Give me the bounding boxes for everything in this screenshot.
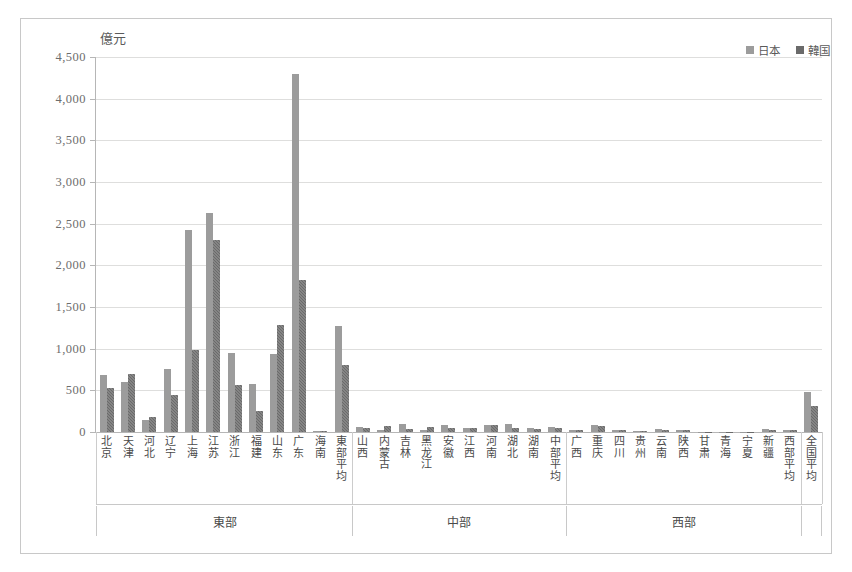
bar-group[interactable] [523, 57, 544, 432]
bar-japan[interactable] [548, 427, 555, 432]
bar-japan[interactable] [356, 427, 363, 432]
bar-korea[interactable] [256, 411, 263, 432]
bar-group[interactable] [694, 57, 715, 432]
bar-japan[interactable] [206, 213, 213, 432]
bar-korea[interactable] [320, 431, 327, 432]
bar-group[interactable] [352, 57, 373, 432]
bar-japan[interactable] [142, 420, 149, 433]
bar-japan[interactable] [185, 230, 192, 432]
bar-korea[interactable] [128, 374, 135, 432]
bar-group[interactable] [438, 57, 459, 432]
bar-group[interactable] [139, 57, 160, 432]
bar-japan[interactable] [676, 430, 683, 433]
bar-group[interactable] [310, 57, 331, 432]
bar-japan[interactable] [377, 430, 384, 433]
bar-group[interactable] [374, 57, 395, 432]
bar-japan[interactable] [441, 425, 448, 432]
bar-japan[interactable] [527, 428, 534, 432]
bar-group[interactable] [608, 57, 629, 432]
region-band-top-border [96, 504, 822, 505]
bar-japan[interactable] [804, 392, 811, 432]
bar-group[interactable] [395, 57, 416, 432]
bar-korea[interactable] [171, 395, 178, 433]
bar-japan[interactable] [633, 431, 640, 432]
bar-korea[interactable] [811, 406, 818, 432]
bar-group[interactable] [779, 57, 800, 432]
bar-group[interactable] [758, 57, 779, 432]
region-label: 東部 [96, 506, 352, 536]
bar-korea[interactable] [534, 429, 541, 432]
bar-japan[interactable] [121, 382, 128, 432]
bar-group[interactable] [502, 57, 523, 432]
bar-group[interactable] [673, 57, 694, 432]
bar-korea[interactable] [598, 426, 605, 432]
bar-korea[interactable] [662, 430, 669, 432]
bar-korea[interactable] [491, 425, 498, 433]
bar-japan[interactable] [228, 353, 235, 432]
bar-group[interactable] [224, 57, 245, 432]
bar-japan[interactable] [569, 430, 576, 432]
bar-group[interactable] [267, 57, 288, 432]
bar-japan[interactable] [164, 369, 171, 432]
bar-japan[interactable] [762, 429, 769, 432]
bar-korea[interactable] [235, 385, 242, 433]
bar-group[interactable] [160, 57, 181, 432]
bar-korea[interactable] [448, 428, 455, 432]
bar-group[interactable] [459, 57, 480, 432]
bar-japan[interactable] [505, 424, 512, 432]
bar-korea[interactable] [363, 428, 370, 432]
bar-korea[interactable] [683, 430, 690, 432]
bar-korea[interactable] [427, 427, 434, 432]
bar-group[interactable] [587, 57, 608, 432]
bar-group[interactable] [480, 57, 501, 432]
bar-group[interactable] [288, 57, 309, 432]
x-axis-tick-label: 贵州 [630, 436, 651, 459]
bar-japan[interactable] [463, 428, 470, 432]
bar-group[interactable] [737, 57, 758, 432]
bar-japan[interactable] [292, 74, 299, 432]
bar-japan[interactable] [270, 354, 277, 432]
bar-korea[interactable] [555, 428, 562, 432]
bar-japan[interactable] [655, 429, 662, 432]
bar-group[interactable] [801, 57, 822, 432]
bar-korea[interactable] [149, 417, 156, 432]
bar-korea[interactable] [619, 430, 626, 433]
bar-japan[interactable] [249, 384, 256, 432]
bar-group[interactable] [416, 57, 437, 432]
bar-japan[interactable] [591, 425, 598, 432]
bar-korea[interactable] [640, 431, 647, 432]
bar-group[interactable] [630, 57, 651, 432]
bar-japan[interactable] [420, 430, 427, 433]
bar-group[interactable] [181, 57, 202, 432]
bar-group[interactable] [96, 57, 117, 432]
bar-japan[interactable] [313, 431, 320, 432]
bar-japan[interactable] [100, 375, 107, 432]
bar-group[interactable] [715, 57, 736, 432]
bar-korea[interactable] [384, 426, 391, 432]
bar-group[interactable] [245, 57, 266, 432]
bar-korea[interactable] [470, 428, 477, 432]
bar-japan[interactable] [484, 425, 491, 432]
bar-japan[interactable] [783, 430, 790, 433]
bar-korea[interactable] [512, 428, 519, 432]
bar-korea[interactable] [576, 430, 583, 432]
bar-japan[interactable] [399, 424, 406, 432]
bar-korea[interactable] [342, 365, 349, 433]
bar-korea[interactable] [213, 240, 220, 432]
bar-korea[interactable] [769, 430, 776, 432]
bar-japan[interactable] [335, 326, 342, 432]
bar-korea[interactable] [192, 350, 199, 432]
bar-korea[interactable] [107, 388, 114, 432]
legend-label-korea: 韓国 [808, 42, 830, 58]
bar-korea[interactable] [277, 325, 284, 433]
bar-group[interactable] [544, 57, 565, 432]
bar-group[interactable] [117, 57, 138, 432]
bar-korea[interactable] [790, 430, 797, 432]
bar-group[interactable] [566, 57, 587, 432]
bar-group[interactable] [331, 57, 352, 432]
bar-group[interactable] [651, 57, 672, 432]
bar-korea[interactable] [406, 429, 413, 432]
bar-korea[interactable] [299, 280, 306, 433]
bar-group[interactable] [203, 57, 224, 432]
bar-japan[interactable] [612, 430, 619, 432]
